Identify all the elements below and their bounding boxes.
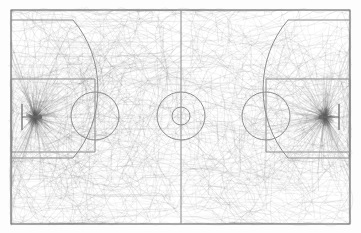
left-hoop — [38, 115, 42, 119]
right-hoop — [319, 115, 323, 119]
basketball-court-diagram — [0, 0, 361, 233]
trajectory-density-figure — [0, 0, 361, 233]
